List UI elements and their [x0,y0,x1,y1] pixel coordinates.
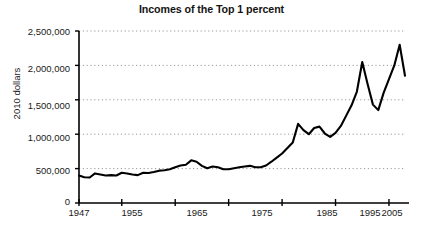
chart-container: Incomes of the Top 1 percent 2010 dollar… [0,0,423,241]
axis-lines [79,31,409,203]
gridlines [79,31,405,169]
plot-area [0,0,423,241]
data-series-line [79,45,405,178]
